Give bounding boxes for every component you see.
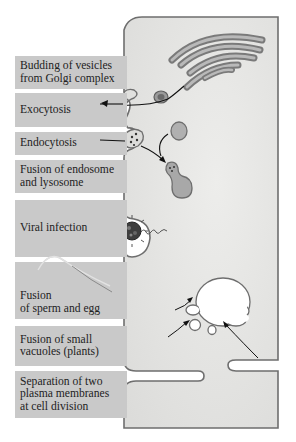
label-sperm-egg-text: Fusion of sperm and egg bbox=[20, 290, 100, 315]
small-vacuole bbox=[208, 326, 216, 335]
label-small-vacuoles: Fusion of small vacuoles (plants) bbox=[15, 326, 127, 366]
label-exocytosis-text: Exocytosis bbox=[20, 104, 71, 117]
label-endosome-lysosome: Fusion of endosome and lysosome bbox=[15, 160, 127, 193]
label-endocytosis: Endocytosis bbox=[15, 132, 127, 155]
label-exocytosis: Exocytosis bbox=[15, 93, 127, 127]
label-budding: Budding of vesicles from Golgi complex bbox=[15, 56, 127, 89]
label-viral-infection-text: Viral infection bbox=[20, 222, 87, 235]
label-endosome-lysosome-text: Fusion of endosome and lysosome bbox=[20, 164, 114, 189]
membrane-fusion-diagram: Budding of vesicles from Golgi complex E… bbox=[0, 0, 296, 442]
label-cell-division: Separation of two plasma membranes at ce… bbox=[15, 371, 127, 418]
label-budding-text: Budding of vesicles from Golgi complex bbox=[20, 60, 115, 85]
lysosome bbox=[171, 122, 187, 140]
label-viral-infection: Viral infection bbox=[15, 200, 127, 257]
label-sperm-egg: Fusion of sperm and egg bbox=[15, 262, 127, 319]
label-cell-division-text: Separation of two plasma membranes at ce… bbox=[20, 376, 109, 414]
small-vacuole bbox=[190, 320, 201, 331]
label-small-vacuoles-text: Fusion of small vacuoles (plants) bbox=[20, 334, 99, 359]
label-endocytosis-text: Endocytosis bbox=[20, 137, 77, 150]
